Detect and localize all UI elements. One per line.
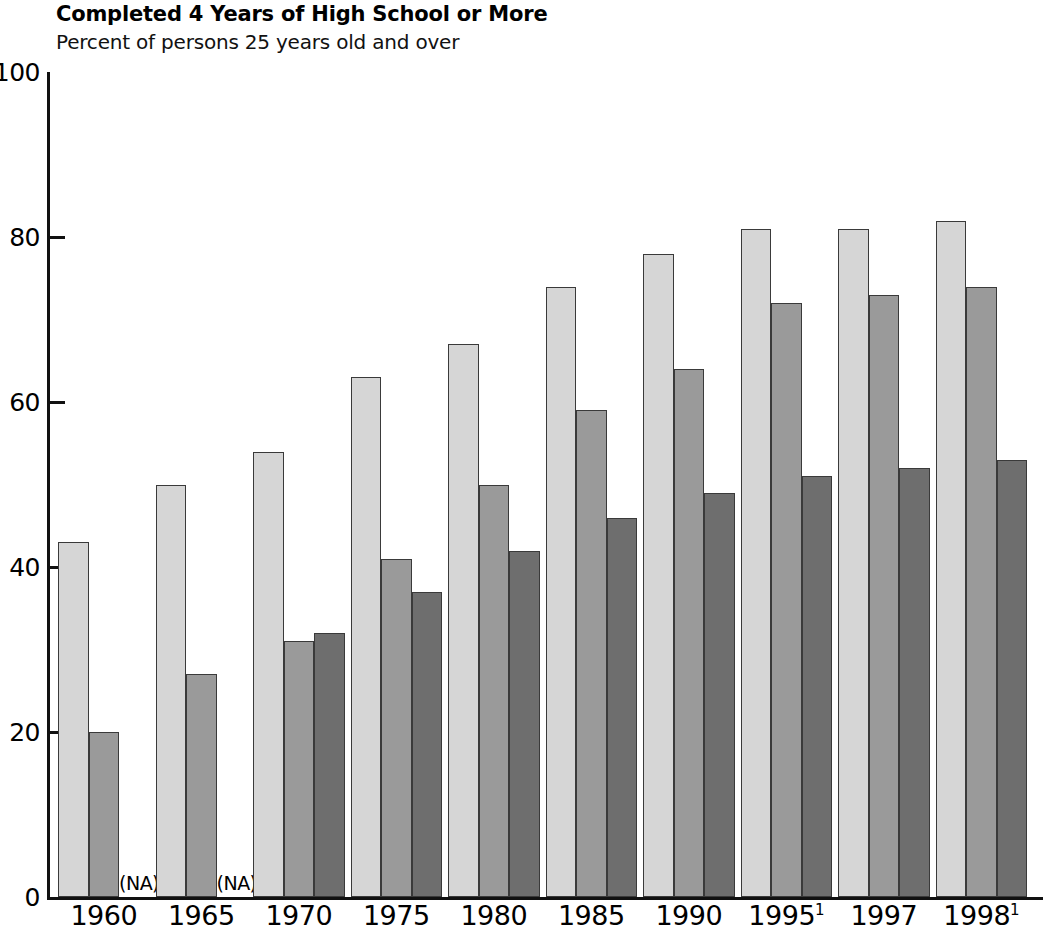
chart-subtitle: Percent of persons 25 years old and over (56, 30, 459, 54)
x-tick-label: 1980 (460, 900, 527, 931)
bar (412, 592, 443, 897)
y-tick-label: 0 (25, 883, 40, 912)
bar (546, 287, 577, 898)
chart-page: Completed 4 Years of High School or More… (0, 0, 1043, 950)
na-marker: (NA) (217, 872, 248, 894)
bar (284, 641, 315, 897)
bar (186, 674, 217, 897)
bar (869, 295, 900, 897)
bar (479, 485, 510, 898)
bar (643, 254, 674, 898)
x-tick-label: 1975 (363, 900, 430, 931)
bar (509, 551, 540, 898)
y-tick-label: 40 (9, 553, 40, 582)
x-tick-label: 1985 (558, 900, 625, 931)
bar (607, 518, 638, 898)
x-tick-label: 1965 (168, 900, 235, 931)
x-tick-label: 19951 (748, 900, 824, 931)
footnote-marker: 1 (815, 901, 824, 919)
bar (966, 287, 997, 898)
x-tick-label: 1970 (265, 900, 332, 931)
y-tick-label: 60 (9, 388, 40, 417)
bar (674, 369, 705, 897)
x-tick-label: 1997 (850, 900, 917, 931)
y-axis-labels: 020406080100 (0, 72, 44, 897)
bar (997, 460, 1028, 897)
bar (156, 485, 187, 898)
bar (448, 344, 479, 897)
bar (351, 377, 382, 897)
bar-series-container: (NA)(NA) (47, 72, 1043, 900)
x-axis-labels: 1960196519701975198019851990199511997199… (47, 900, 1043, 950)
x-tick-label: 1990 (655, 900, 722, 931)
bar (89, 732, 120, 897)
bar (802, 476, 833, 897)
bar (771, 303, 802, 897)
plot-area: (NA)(NA) (47, 72, 1043, 897)
na-marker: (NA) (119, 872, 150, 894)
chart-title: Completed 4 Years of High School or More (56, 2, 547, 26)
bar (899, 468, 930, 897)
bar (936, 221, 967, 898)
bar (741, 229, 772, 897)
bar (838, 229, 869, 897)
bar (704, 493, 735, 897)
y-tick-label: 100 (0, 58, 40, 87)
y-tick-label: 80 (9, 223, 40, 252)
bar (381, 559, 412, 897)
y-tick-label: 20 (9, 718, 40, 747)
x-tick-label: 19981 (943, 900, 1019, 931)
x-tick-label: 1960 (70, 900, 137, 931)
bar (58, 542, 89, 897)
bar (253, 452, 284, 898)
bar (314, 633, 345, 897)
bar (576, 410, 607, 897)
footnote-marker: 1 (1010, 901, 1019, 919)
